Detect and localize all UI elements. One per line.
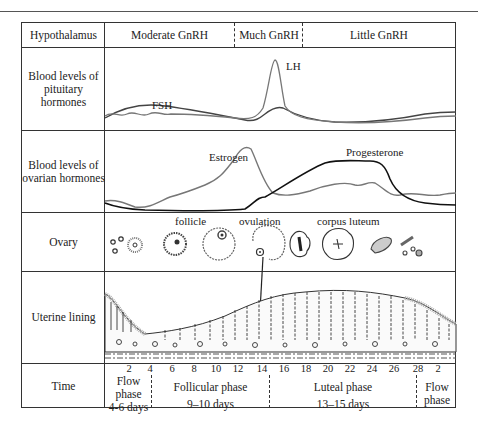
phase-follicular: Follicular phase 9–10 days [152,381,269,411]
growing-follicle-icon [164,233,186,255]
corpus-albicans-icon [371,237,422,256]
row-label-time: Time [22,364,105,408]
time-tick: 14 [257,363,268,374]
row-label-hypothalamus: Hypothalamus [22,23,105,47]
phase-name: Follicular phase [152,381,269,394]
mature-follicle-icon [203,228,235,260]
row-label-ovary: Ovary [22,213,105,271]
time-tick: 20 [323,363,334,374]
estrogen-label: Estrogen [209,151,248,163]
time-tick: 26 [389,363,400,374]
corpus-luteum-icon [290,229,354,260]
row-label-uterine: Uterine lining [22,272,105,363]
lh-line [105,60,456,123]
phase-duration: 9–10 days [152,398,269,411]
primordial-follicles-icon [111,237,123,253]
fsh-label: FSH [152,99,172,111]
progesterone-label: Progesterone [346,146,403,158]
phase-flow: Flow phase 4-6 days [106,375,151,414]
row-label-pituitary: Blood levels of pituitary hormones [22,48,105,130]
time-tick: 10 [211,363,222,374]
time-tick: 2 [435,363,440,374]
time-tick: 22 [345,363,356,374]
phase-name: Luteal phase [270,381,416,394]
time-tick: 16 [279,363,290,374]
phase-luteal: Luteal phase 13–15 days [270,381,416,411]
menstrual-cycle-table: Hypothalamus Moderate GnRH Much GnRH Lit… [21,22,456,408]
uterine-lining-illustration [105,272,456,363]
time-tick: 28 [413,363,424,374]
ovary-stage-illustrations [105,213,456,271]
pituitary-hormone-chart [105,48,456,130]
phase-name: Flow phase [106,375,151,401]
time-tick: 2 [126,363,131,374]
time-tick: 8 [191,363,196,374]
row-label-ovarian: Blood levels of ovarian hormones [22,131,105,212]
phase-name: Flow phase [422,381,452,407]
time-tick: 12 [233,363,244,374]
gnrh-moderate: Moderate GnRH [105,23,234,47]
gnrh-much: Much GnRH [235,23,303,47]
time-tick: 6 [169,363,174,374]
time-tick: 4 [147,363,152,374]
phase-duration: 13–15 days [270,398,416,411]
time-tick: 18 [301,363,312,374]
phase-flow-next: Flow phase [417,381,457,407]
lh-label: LH [286,60,301,72]
phase-duration: 4-6 days [106,401,151,414]
time-tick: 24 [367,363,378,374]
ovarian-hormone-chart [105,131,456,212]
page-header-rule [0,11,478,12]
primary-follicle-icon [128,238,142,252]
gnrh-little: Little GnRH [303,23,455,47]
myometrium-layer [105,354,456,358]
